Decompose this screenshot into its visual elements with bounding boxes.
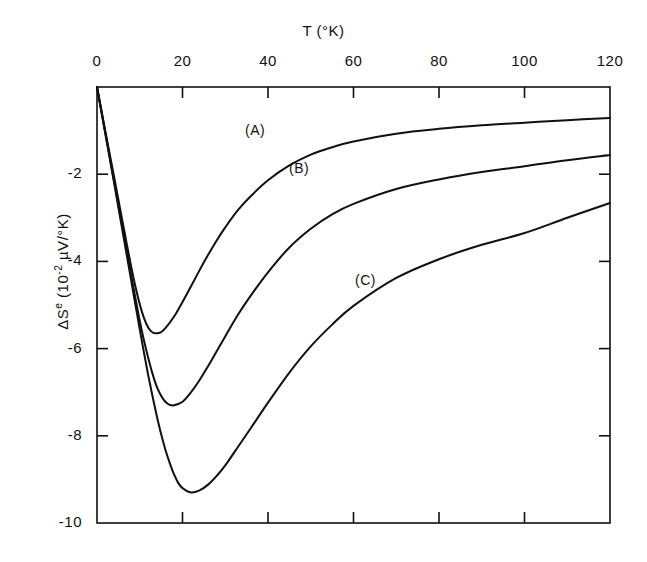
curve-a [97, 87, 610, 333]
curve-c [97, 87, 610, 493]
chart-figure: T (°K) ΔSe (10-2 µV/°K) 020406080100120 … [0, 0, 647, 562]
plot-area [0, 0, 647, 562]
data-curves [97, 87, 610, 493]
curve-b [97, 87, 610, 406]
